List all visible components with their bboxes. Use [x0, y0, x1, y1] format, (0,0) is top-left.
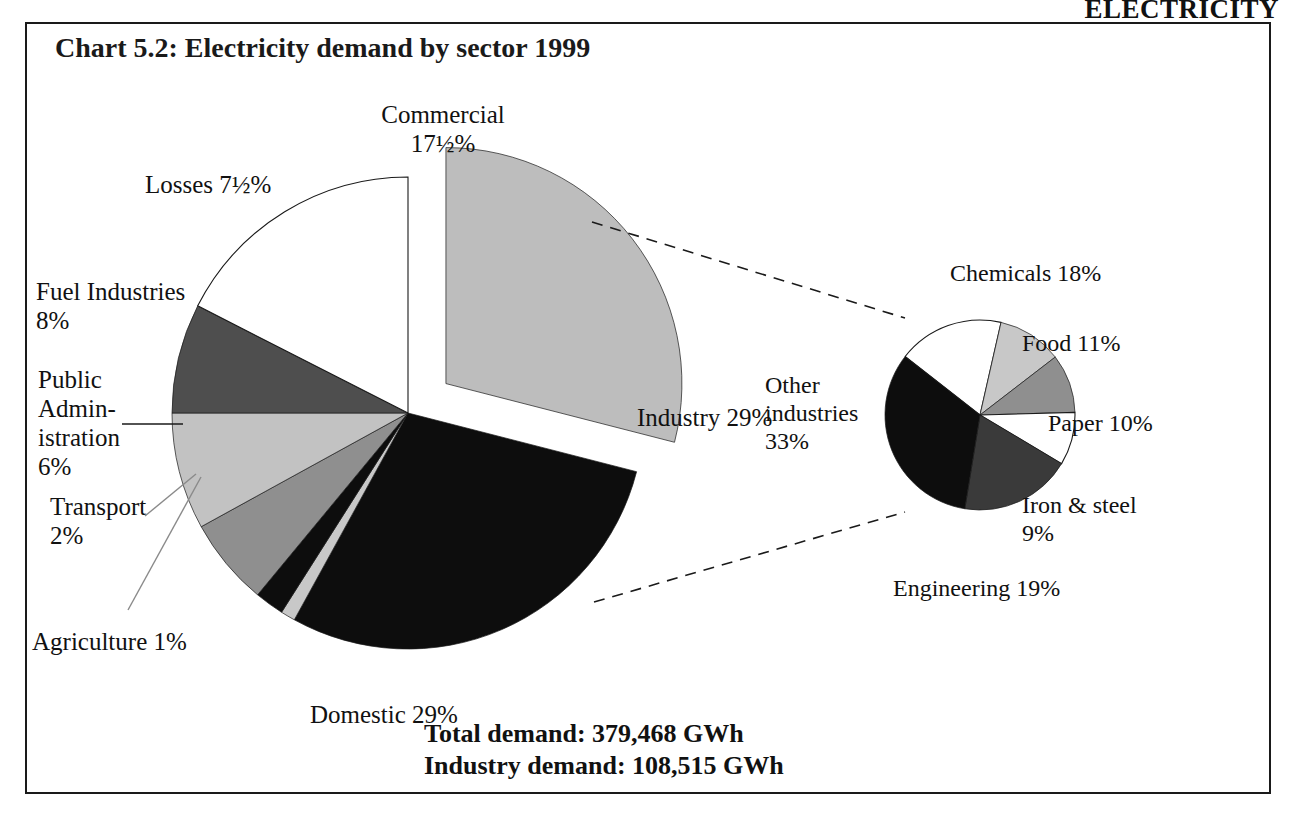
slice-label-paper: Paper 10%: [1048, 410, 1153, 438]
slice-label-losses: Losses 7½%: [145, 170, 271, 199]
slice-label-fuel-industries: Fuel Industries 8%: [36, 277, 185, 335]
slice-label-agriculture: Agriculture 1%: [32, 627, 187, 656]
connector-line-2: [594, 512, 905, 602]
slice-label-engineering: Engineering 19%: [893, 575, 1060, 603]
total-demand-note: Total demand: 379,468 GWh: [424, 718, 744, 750]
slice-label-transport: Transport 2%: [50, 492, 146, 550]
slice-label-industry: Industry 29%: [637, 403, 772, 432]
industry-demand-note: Industry demand: 108,515 GWh: [424, 750, 784, 782]
slice-label-food: Food 11%: [1022, 330, 1120, 358]
slice-label-chemicals: Chemicals 18%: [950, 260, 1101, 288]
slice-label-iron-steel: Iron & steel 9%: [1022, 492, 1137, 548]
slice-label-public-administration: Public Admin- istration 6%: [38, 365, 120, 481]
main-pie: [172, 148, 682, 649]
slice-label-other-industries: Other industries 33%: [765, 372, 858, 455]
slice-label-commercial: Commercial 17½%: [363, 100, 523, 158]
pie-slice-industry: [446, 148, 682, 443]
